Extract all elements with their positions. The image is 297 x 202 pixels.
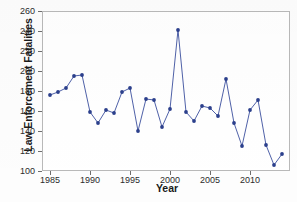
data-point: 2010: 161 <box>248 108 252 112</box>
data-point: 1996: 140 <box>136 129 140 133</box>
x-tick-label: 2000 <box>160 175 180 185</box>
data-point: 1998: 171 <box>152 98 156 102</box>
series-polyline <box>50 30 282 165</box>
x-tick-label: 1990 <box>80 175 100 185</box>
data-point: 1987: 183 <box>64 86 68 90</box>
data-point: 1997: 172 <box>144 97 148 101</box>
y-tick-label: 200 <box>4 66 35 76</box>
x-tick-label: 1985 <box>40 175 60 185</box>
y-tick-mark <box>38 171 42 172</box>
data-point: 2006: 155 <box>216 114 220 118</box>
data-point: 1988: 195 <box>72 74 76 78</box>
data-point: 1985: 176 <box>48 93 52 97</box>
data-point: 2002: 159 <box>184 110 188 114</box>
data-point: 2009: 125 <box>240 144 244 148</box>
data-point: 2003: 150 <box>192 119 196 123</box>
data-point: 1993: 158 <box>112 111 116 115</box>
data-point: 2008: 148 <box>232 121 236 125</box>
x-tick-label: 1995 <box>120 175 140 185</box>
y-tick-label: 100 <box>4 166 35 176</box>
data-point: 1995: 183 <box>128 86 132 90</box>
y-tick-label: 160 <box>4 106 35 116</box>
data-point: 2014: 117 <box>280 152 284 156</box>
data-point: 2011: 171 <box>256 98 260 102</box>
data-point: 1992: 161 <box>104 108 108 112</box>
data-point: 2001: 241 <box>176 28 180 32</box>
y-tick-label: 140 <box>4 126 35 136</box>
data-point: 1990: 159 <box>88 110 92 114</box>
data-point: 2005: 163 <box>208 106 212 110</box>
data-point: 2004: 165 <box>200 104 204 108</box>
y-tick-label: 220 <box>4 46 35 56</box>
data-series-line: 1985: 1761986: 1791987: 1831988: 1951989… <box>42 11 290 171</box>
data-point: 2013: 106 <box>272 163 276 167</box>
data-point: 1999: 144 <box>160 125 164 129</box>
y-tick-label: 240 <box>4 26 35 36</box>
y-tick-label: 260 <box>4 6 35 16</box>
data-point: 1991: 148 <box>96 121 100 125</box>
x-tick-label: 2010 <box>240 175 260 185</box>
data-point: 2000: 162 <box>168 107 172 111</box>
y-tick-label: 180 <box>4 86 35 96</box>
data-point: 2012: 126 <box>264 143 268 147</box>
data-point: 2007: 192 <box>224 77 228 81</box>
data-point: 1986: 179 <box>56 90 60 94</box>
data-point: 1994: 179 <box>120 90 124 94</box>
line-chart: Law Enforcement Fatalities Year 10012014… <box>0 0 297 202</box>
data-point: 1989: 196 <box>80 73 84 77</box>
x-tick-label: 2005 <box>200 175 220 185</box>
y-tick-label: 120 <box>4 146 35 156</box>
